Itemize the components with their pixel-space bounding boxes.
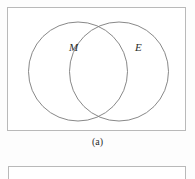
venn-universal-set-rectangle: M E xyxy=(7,7,186,131)
set-circle-e xyxy=(70,22,169,121)
set-label-m: M xyxy=(69,42,78,53)
figure-root: M E (a) xyxy=(0,0,195,179)
venn-universal-set-rectangle-secondary xyxy=(8,166,186,179)
set-label-e: E xyxy=(135,42,142,53)
set-circle-m xyxy=(29,22,128,121)
panel-caption-a: (a) xyxy=(0,136,195,148)
venn-diagram-circles xyxy=(8,8,185,130)
